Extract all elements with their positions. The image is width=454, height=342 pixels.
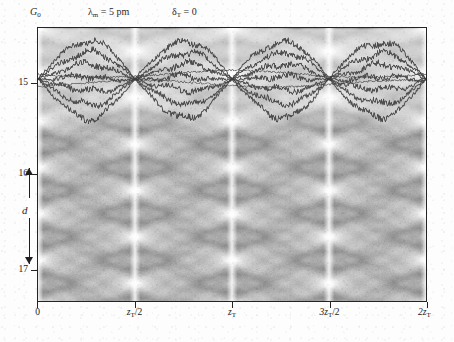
y-axis-tick bbox=[31, 270, 38, 271]
talbot-carpet-figure: G0 λm = 5 pm δT = 0 151617 d 0zT/2zT3zT/… bbox=[0, 0, 454, 342]
y-axis-tick-label: 17 bbox=[10, 264, 28, 274]
y-axis-tick bbox=[31, 83, 38, 84]
d-dimension-arrow bbox=[24, 168, 36, 264]
x-axis-tick-label: zT/2 bbox=[127, 307, 142, 319]
y-axis-label: d bbox=[22, 204, 28, 216]
x-axis-tick-label: zT bbox=[228, 307, 236, 319]
x-axis-tick-label: 3zT/2 bbox=[319, 307, 339, 319]
y-axis-tick-label: 15 bbox=[10, 77, 28, 87]
x-axis-tick-label: 0 bbox=[35, 307, 40, 317]
talbot-carpet-canvas bbox=[38, 28, 426, 301]
annotation-delta-value: = 0 bbox=[181, 6, 197, 17]
annotation-delta-t: δT = 0 bbox=[172, 6, 197, 19]
x-axis-tick-label: 2zT bbox=[418, 307, 431, 319]
annotation-g0: G0 bbox=[30, 6, 41, 19]
d-arrow-head-down bbox=[25, 257, 33, 264]
plot-frame bbox=[37, 27, 427, 302]
d-arrow-head-up bbox=[25, 168, 33, 175]
annotation-lambda-value: = 5 pm bbox=[98, 6, 129, 17]
annotation-g0-subscript: 0 bbox=[37, 11, 41, 19]
annotation-lambda-m: λm = 5 pm bbox=[88, 6, 129, 19]
